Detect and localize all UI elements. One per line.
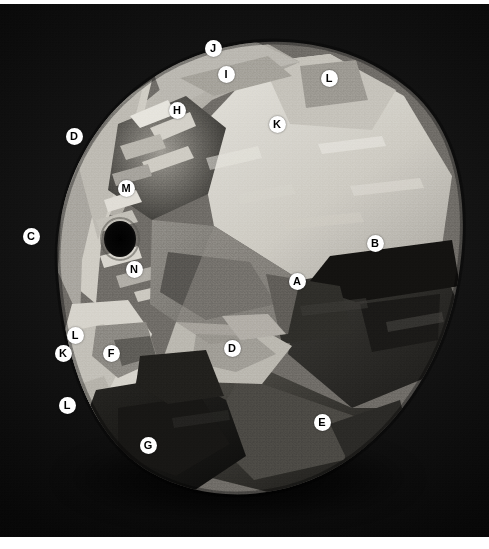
annotation-marker-d[interactable]: D — [224, 340, 241, 357]
annotation-marker-e[interactable]: E — [314, 414, 331, 431]
annotation-marker-i[interactable]: I — [218, 66, 235, 83]
photographic-plate: JILHKDMCBANLKFDLEG — [0, 4, 489, 537]
dark-opening — [104, 221, 136, 257]
annotation-marker-a[interactable]: A — [289, 273, 306, 290]
annotation-marker-f[interactable]: F — [103, 345, 120, 362]
annotation-marker-c[interactable]: C — [23, 228, 40, 245]
annotation-marker-l[interactable]: L — [67, 327, 84, 344]
annotation-marker-h[interactable]: H — [169, 102, 186, 119]
annotation-marker-l[interactable]: L — [321, 70, 338, 87]
figure-stage: JILHKDMCBANLKFDLEG — [0, 0, 489, 549]
annotation-marker-n[interactable]: N — [126, 261, 143, 278]
annotation-marker-j[interactable]: J — [205, 40, 222, 57]
crumpled-ball-illustration — [0, 4, 489, 537]
annotation-marker-l[interactable]: L — [59, 397, 76, 414]
ball-body — [0, 4, 489, 537]
annotation-marker-b[interactable]: B — [367, 235, 384, 252]
annotation-marker-m[interactable]: M — [118, 180, 135, 197]
annotation-marker-d[interactable]: D — [66, 128, 83, 145]
annotation-marker-k[interactable]: K — [269, 116, 286, 133]
annotation-marker-k[interactable]: K — [55, 345, 72, 362]
annotation-marker-g[interactable]: G — [140, 437, 157, 454]
